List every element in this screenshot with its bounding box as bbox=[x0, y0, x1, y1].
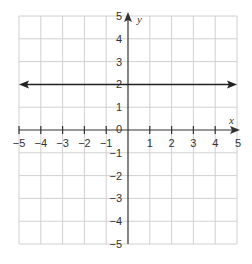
x-label-m2: −2 bbox=[78, 137, 91, 149]
y-label-p1: 1 bbox=[116, 101, 122, 113]
x-label-m3: −3 bbox=[56, 137, 69, 149]
y-label-m1: −1 bbox=[109, 147, 122, 159]
y-label-m2: −2 bbox=[109, 170, 122, 182]
y-label-m4: −4 bbox=[109, 215, 122, 227]
x-tick-labels: −5 −4 −3 −2 −1 1 2 3 4 5 bbox=[13, 137, 241, 149]
x-label-p5: 5 bbox=[235, 137, 241, 149]
coordinate-plane: −5 −4 −3 −2 −1 1 2 3 4 5 5 4 3 2 1 0 −1 … bbox=[0, 0, 252, 264]
origin-label: 0 bbox=[116, 123, 122, 135]
y-axis-name: y bbox=[136, 13, 142, 25]
x-label-m5: −5 bbox=[13, 137, 26, 149]
x-axis-name: x bbox=[228, 114, 234, 126]
x-label-p4: 4 bbox=[212, 137, 218, 149]
x-label-m4: −4 bbox=[35, 137, 48, 149]
y-label-m3: −3 bbox=[109, 192, 122, 204]
x-label-p1: 1 bbox=[147, 137, 153, 149]
x-label-p3: 3 bbox=[190, 137, 196, 149]
y-label-p2: 2 bbox=[116, 78, 122, 90]
x-label-p2: 2 bbox=[169, 137, 175, 149]
y-label-p3: 3 bbox=[116, 56, 122, 68]
y-label-p4: 4 bbox=[116, 33, 122, 45]
x-axis bbox=[19, 126, 233, 134]
y-label-m5: −5 bbox=[109, 238, 122, 250]
y-label-p5: 5 bbox=[116, 10, 122, 22]
